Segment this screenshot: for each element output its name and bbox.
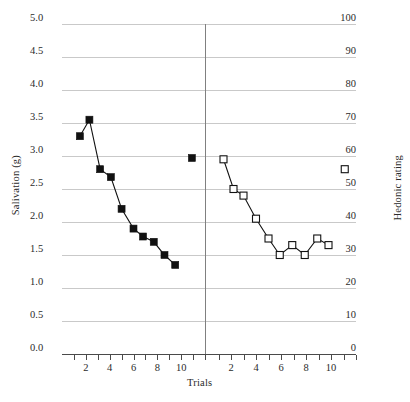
chart-container: Salivation (g) Hedonic rating Trials 5.0… [0, 0, 410, 402]
datapoint-salivation-acquisition-3 [107, 174, 114, 181]
datapoint-salivation-acquisition-1 [86, 116, 93, 123]
tickmark-group [75, 355, 357, 360]
series-line-salivation-acquisition [80, 120, 175, 265]
datapoint-salivation-acquisition-4 [118, 205, 125, 212]
datapoint-salivation-acquisition-7 [150, 238, 157, 245]
datapoint-salivation-acquisition-5 [130, 225, 137, 232]
datapoint-salivation-acquisition-6 [140, 233, 147, 240]
datapoint-hedonic-acquisition-2 [240, 192, 247, 199]
datapoint-salivation-acquisition-8 [161, 252, 168, 259]
datapoint-hedonic-acquisition-4 [265, 235, 272, 242]
datapoint-hedonic-acquisition-7 [301, 252, 308, 259]
datapoint-hedonic-acquisition-9 [325, 242, 332, 249]
plot-area [0, 0, 410, 402]
datapoint-hedonic-acquisition-3 [253, 215, 260, 222]
datapoint-salivation-isolated-test-0 [188, 154, 195, 161]
datapoint-hedonic-acquisition-0 [220, 156, 227, 163]
datapoint-hedonic-acquisition-5 [276, 252, 283, 259]
datapoint-salivation-acquisition-9 [172, 261, 179, 268]
datapoint-hedonic-acquisition-1 [230, 186, 237, 193]
datapoint-salivation-acquisition-2 [97, 166, 104, 173]
data-series-group [76, 116, 348, 268]
datapoint-hedonic-acquisition-8 [314, 235, 321, 242]
datapoint-hedonic-isolated-test-0 [341, 166, 348, 173]
datapoint-salivation-acquisition-0 [76, 133, 83, 140]
datapoint-hedonic-acquisition-6 [289, 242, 296, 249]
series-line-hedonic-acquisition [224, 159, 329, 255]
